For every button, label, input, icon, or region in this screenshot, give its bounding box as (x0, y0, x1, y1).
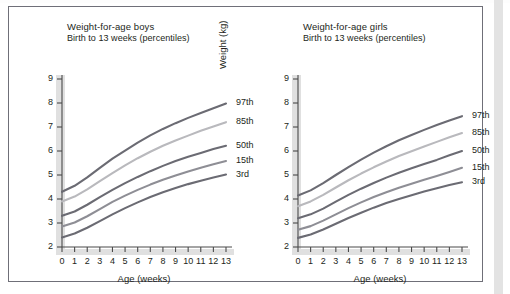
plot-svg-boys (54, 67, 234, 255)
series-label-85th: 85th (472, 127, 490, 137)
y-tick-label: 6 (275, 145, 289, 155)
plot-area-boys: 2345678901234567891011121397th85th50th15… (54, 67, 234, 255)
x-axis-title-boys: Age (weeks) (54, 273, 234, 284)
percentile-curve-15th (298, 168, 462, 230)
scan-edge-top (0, 0, 510, 3)
y-tick-label: 8 (39, 97, 53, 107)
percentile-curve-97th (62, 103, 226, 191)
y-tick-label: 3 (39, 217, 53, 227)
y-tick-label: 6 (39, 145, 53, 155)
series-label-3rd: 3rd (472, 176, 485, 186)
percentile-curve-15th (62, 161, 226, 227)
y-tick-label: 5 (39, 169, 53, 179)
y-tick-label: 2 (39, 241, 53, 251)
series-label-15th: 15th (472, 162, 490, 172)
panel-title-girls: Weight-for-age girls (303, 21, 388, 33)
y-tick-label: 3 (275, 217, 289, 227)
y-tick-label: 7 (39, 121, 53, 131)
y-tick-label: 4 (275, 193, 289, 203)
y-tick-label: 8 (275, 97, 289, 107)
y-tick-label: 2 (275, 241, 289, 251)
x-tick-label: 13 (455, 256, 469, 266)
scan-band-right (494, 0, 503, 294)
figure-page: Weight-for-age boys Birth to 13 weeks (p… (0, 0, 510, 294)
y-tick-label: 9 (275, 73, 289, 83)
series-label-50th: 50th (472, 145, 490, 155)
x-axis-title-girls: Age (weeks) (290, 273, 470, 284)
y-axis-title-girls: Weight (kg) (217, 0, 228, 69)
percentile-curve-85th (62, 122, 226, 201)
y-tick-label: 4 (39, 193, 53, 203)
figure-frame: Weight-for-age boys Birth to 13 weeks (p… (8, 6, 483, 282)
chart-panel-boys: Weight-for-age boys Birth to 13 weeks (p… (9, 7, 246, 283)
percentile-curve-97th (298, 116, 462, 195)
y-tick-label: 7 (275, 121, 289, 131)
panel-title-boys: Weight-for-age boys (67, 21, 154, 33)
x-tick-label: 13 (219, 256, 233, 266)
plot-svg-girls (290, 67, 470, 255)
y-tick-label: 9 (39, 73, 53, 83)
y-tick-label: 5 (275, 169, 289, 179)
series-label-97th: 97th (472, 110, 490, 120)
panel-subtitle-girls: Birth to 13 weeks (percentiles) (303, 33, 426, 45)
panel-subtitle-boys: Birth to 13 weeks (percentiles) (67, 33, 190, 45)
plot-area-girls: 2345678901234567891011121397th85th50th15… (290, 67, 470, 255)
chart-panel-girls: Weight-for-age girls Birth to 13 weeks (… (245, 7, 482, 283)
